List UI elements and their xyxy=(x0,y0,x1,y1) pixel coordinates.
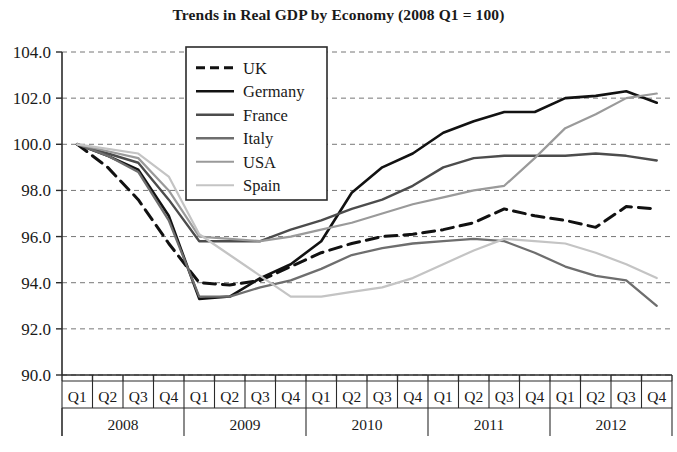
x-axis-year-label: 2010 xyxy=(352,416,383,433)
x-axis-quarter-label: Q4 xyxy=(159,388,178,405)
x-axis-quarter-label: Q1 xyxy=(434,388,453,405)
x-axis-quarter-label: Q2 xyxy=(342,388,361,405)
x-axis-quarter-label: Q1 xyxy=(556,388,575,405)
x-axis-quarter-label: Q3 xyxy=(495,388,514,405)
x-axis-quarter-label: Q4 xyxy=(525,388,544,405)
series-line-italy xyxy=(77,144,657,306)
legend-label-germany[interactable]: Germany xyxy=(243,82,305,101)
x-axis-quarter-label: Q4 xyxy=(647,388,666,405)
legend-label-spain[interactable]: Spain xyxy=(243,176,281,195)
chart-legend[interactable]: UKGermanyFranceItalyUSASpain xyxy=(186,47,327,200)
y-axis-tick-label: 96.0 xyxy=(21,228,51,247)
x-axis-quarter-label: Q1 xyxy=(312,388,331,405)
y-axis-tick-label: 102.0 xyxy=(13,89,51,108)
x-axis-quarter-label: Q2 xyxy=(586,388,605,405)
x-axis-quarter-label: Q1 xyxy=(190,388,209,405)
legend-label-italy[interactable]: Italy xyxy=(243,129,274,148)
x-axis-year-label: 2009 xyxy=(230,416,261,433)
x-axis-quarter-label: Q3 xyxy=(129,388,148,405)
y-axis-tick-label: 100.0 xyxy=(13,135,51,154)
gridlines xyxy=(62,52,672,375)
x-axis-quarter-label: Q3 xyxy=(251,388,270,405)
y-axis-tick-label: 104.0 xyxy=(13,43,51,62)
y-axis-tick-label: 92.0 xyxy=(21,320,51,339)
y-axis-tick-label: 98.0 xyxy=(21,181,51,200)
legend-label-france[interactable]: France xyxy=(243,106,288,125)
data-series-group xyxy=(77,91,657,306)
y-axis-tick-label: 94.0 xyxy=(21,274,51,293)
series-line-france xyxy=(77,144,657,241)
y-axis-tick-labels: 104.0102.0100.098.096.094.092.090.0 xyxy=(13,43,51,385)
x-axis-quarter-label: Q4 xyxy=(281,388,300,405)
legend-label-uk[interactable]: UK xyxy=(243,59,267,78)
x-axis-quarter-label: Q2 xyxy=(220,388,239,405)
x-axis-year-label: 2008 xyxy=(108,416,139,433)
series-line-usa xyxy=(77,94,657,242)
x-axis-quarter-label: Q4 xyxy=(403,388,422,405)
chart-container: Trends in Real GDP by Economy (2008 Q1 =… xyxy=(0,0,677,452)
x-axis-quarter-label: Q1 xyxy=(68,388,87,405)
chart-plot: 104.0102.0100.098.096.094.092.090.0 Q1Q2… xyxy=(0,0,677,452)
x-axis-quarter-label: Q2 xyxy=(464,388,483,405)
y-axis-tick-label: 90.0 xyxy=(21,366,51,385)
x-axis-quarter-label: Q2 xyxy=(98,388,117,405)
x-axis-year-label: 2012 xyxy=(596,416,627,433)
x-axis-quarter-label: Q3 xyxy=(373,388,392,405)
x-axis-quarter-label: Q3 xyxy=(617,388,636,405)
x-axis-labels: Q1Q2Q3Q4Q1Q2Q3Q4Q1Q2Q3Q4Q1Q2Q3Q4Q1Q2Q3Q4… xyxy=(62,381,672,436)
legend-label-usa[interactable]: USA xyxy=(243,153,276,172)
x-axis-year-label: 2011 xyxy=(474,416,504,433)
